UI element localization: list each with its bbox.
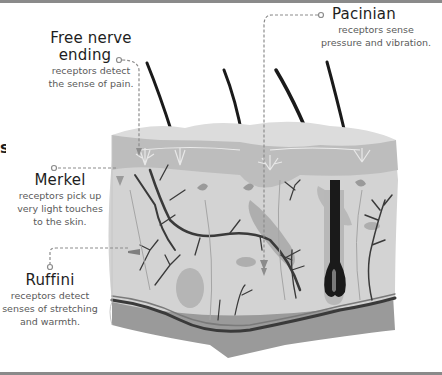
ruffini-desc-line2: senses of stretching bbox=[0, 302, 100, 315]
ruffini-desc-line3: and warmth. bbox=[0, 315, 100, 328]
label-free-nerve-ending: Free nerve ending receptors detect the s… bbox=[36, 30, 146, 90]
label-ruffini: Ruffini receptors detect senses of stret… bbox=[0, 272, 100, 328]
free-nerve-ending-desc-line1: receptors detect bbox=[36, 64, 146, 77]
pacinian-desc-line2: pressure and vibration. bbox=[310, 36, 442, 49]
cropped-heading-fragment: s bbox=[0, 138, 6, 157]
pacinian-title: Pacinian bbox=[310, 6, 442, 23]
merkel-title: Merkel bbox=[10, 172, 110, 189]
pacinian-desc-line1: receptors sense bbox=[310, 23, 442, 36]
label-merkel: Merkel receptors pick up very light touc… bbox=[10, 172, 110, 228]
free-nerve-ending-title-line1: Free nerve bbox=[36, 30, 146, 47]
merkel-desc-line2: very light touches bbox=[10, 202, 110, 215]
merkel-desc-line3: to the skin. bbox=[10, 215, 110, 228]
ruffini-title: Ruffini bbox=[0, 272, 100, 289]
merkel-desc-line1: receptors pick up bbox=[10, 189, 110, 202]
ruffini-desc-line1: receptors detect bbox=[0, 289, 100, 302]
free-nerve-ending-desc-line2: the sense of pain. bbox=[36, 77, 146, 90]
hair-follicle bbox=[324, 180, 346, 305]
label-pacinian: Pacinian receptors sense pressure and vi… bbox=[310, 6, 442, 49]
free-nerve-ending-title-line2: ending bbox=[24, 47, 146, 64]
